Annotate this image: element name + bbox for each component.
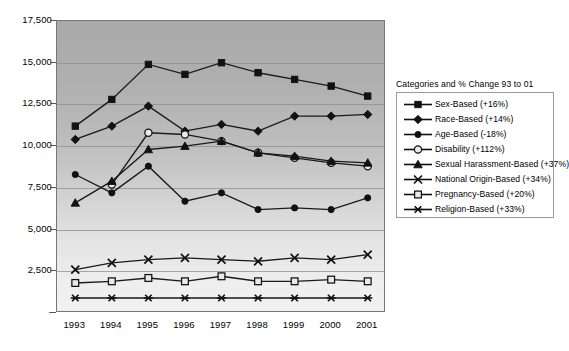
legend-item[interactable]: Sexual Harassment-Based (+37%) <box>401 157 553 172</box>
data-point-asterisk <box>363 295 372 302</box>
legend-marker-open-circle <box>403 142 433 157</box>
data-point-filled-diamond <box>364 110 372 118</box>
data-point-filled-diamond <box>290 112 298 120</box>
data-point-open-square <box>72 280 79 287</box>
data-point-filled-square <box>72 123 78 129</box>
data-point-filled-square <box>365 93 371 99</box>
data-point-asterisk <box>217 295 226 302</box>
y-axis: -2,5005,0007,50010,00012,50015,00017,500 <box>0 0 52 351</box>
y-axis-tick-label: 15,000 <box>0 57 52 67</box>
data-point-filled-circle <box>415 131 421 137</box>
legend-marker-asterisk <box>403 202 433 217</box>
series-line <box>75 166 367 209</box>
y-axis-tick-label: 12,500 <box>0 98 52 108</box>
data-point-filled-circle <box>182 198 188 204</box>
legend-item[interactable]: Sex-Based (+16%) <box>401 97 553 112</box>
y-axis-tick-label: - <box>0 307 52 317</box>
data-point-filled-square <box>109 96 115 102</box>
data-point-asterisk <box>71 295 80 302</box>
legend-marker-cross-x <box>403 172 433 187</box>
legend-item-label: Disability (+112%) <box>435 144 505 155</box>
legend-item[interactable]: Race-Based (+14%) <box>401 112 553 127</box>
data-point-open-square <box>108 278 115 285</box>
series-line <box>75 255 367 270</box>
legend-item-label: Age-Based (-18%) <box>435 129 507 140</box>
data-point-open-square <box>218 273 225 280</box>
legend-item-label: Religion-Based (+33%) <box>435 204 525 215</box>
series-5 <box>71 251 371 274</box>
data-point-open-square <box>291 278 298 285</box>
data-point-filled-circle <box>109 190 115 196</box>
data-point-filled-diamond <box>254 127 262 135</box>
legend-item[interactable]: Disability (+112%) <box>401 142 553 157</box>
data-point-filled-diamond <box>217 120 225 128</box>
data-point-filled-square <box>145 61 151 67</box>
legend-marker-filled-circle <box>403 127 433 142</box>
legend-marker-filled-diamond <box>403 112 433 127</box>
legend: Sex-Based (+16%)Race-Based (+14%)Age-Bas… <box>396 92 554 218</box>
y-axis-tick-label: 7,500 <box>0 182 52 192</box>
legend-item[interactable]: Pregnancy-Based (+20%) <box>401 187 553 202</box>
y-axis-tick-mark <box>50 312 56 313</box>
data-point-open-square <box>364 278 371 285</box>
data-point-asterisk <box>290 295 299 302</box>
data-point-asterisk <box>253 295 262 302</box>
y-axis-tick-label: 10,000 <box>0 140 52 150</box>
legend-marker-filled-triangle <box>403 157 433 172</box>
data-point-filled-circle <box>145 163 151 169</box>
data-point-asterisk <box>413 206 422 213</box>
data-point-open-square <box>145 275 152 282</box>
data-point-filled-circle <box>292 205 298 211</box>
series-6 <box>72 273 371 286</box>
data-point-filled-diamond <box>71 135 79 143</box>
series-layer <box>57 21 385 312</box>
data-point-open-square <box>182 278 189 285</box>
legend-item-label: Sex-Based (+16%) <box>435 99 508 110</box>
legend-marker-filled-square <box>403 97 433 112</box>
data-point-open-circle <box>145 129 152 136</box>
legend-item-label: National Origin-Based (+34%) <box>435 174 551 185</box>
y-axis-tick-label: 17,500 <box>0 15 52 25</box>
series-line <box>112 133 368 185</box>
series-0 <box>72 60 371 130</box>
data-point-open-circle <box>414 146 421 153</box>
data-point-filled-diamond <box>144 102 152 110</box>
data-point-filled-diamond <box>108 122 116 130</box>
legend-item-label: Sexual Harassment-Based (+37%) <box>435 159 569 170</box>
data-point-filled-circle <box>218 190 224 196</box>
data-point-filled-circle <box>328 206 334 212</box>
y-axis-tick-label: 5,000 <box>0 224 52 234</box>
legend-item[interactable]: National Origin-Based (+34%) <box>401 172 553 187</box>
data-point-open-square <box>328 276 335 283</box>
data-point-open-square <box>255 278 262 285</box>
y-axis-tick-label: 2,500 <box>0 265 52 275</box>
data-point-filled-circle <box>72 171 78 177</box>
data-point-filled-square <box>415 101 421 107</box>
legend-item-label: Pregnancy-Based (+20%) <box>435 189 535 200</box>
data-point-filled-diamond <box>414 115 422 123</box>
data-point-filled-circle <box>255 206 261 212</box>
data-point-filled-triangle <box>71 199 79 207</box>
data-point-filled-square <box>255 70 261 76</box>
data-point-asterisk <box>144 295 153 302</box>
data-point-filled-diamond <box>327 112 335 120</box>
legend-marker-open-square <box>403 187 433 202</box>
series-7 <box>71 295 373 302</box>
legend-title: Categories and % Change 93 to 01 <box>396 79 533 89</box>
data-point-filled-square <box>328 83 334 89</box>
data-point-filled-circle <box>365 195 371 201</box>
legend-item[interactable]: Religion-Based (+33%) <box>401 202 553 217</box>
legend-item-label: Race-Based (+14%) <box>435 114 513 125</box>
data-point-filled-square <box>291 76 297 82</box>
data-point-asterisk <box>180 295 189 302</box>
data-point-asterisk <box>327 295 336 302</box>
series-2 <box>72 163 371 213</box>
data-point-filled-square <box>218 60 224 66</box>
data-point-filled-square <box>182 71 188 77</box>
legend-item[interactable]: Age-Based (-18%) <box>401 127 553 142</box>
data-point-open-square <box>415 191 422 198</box>
x-axis-tick-label: 2001 <box>345 319 389 330</box>
data-point-open-circle <box>181 131 188 138</box>
data-point-asterisk <box>107 295 116 302</box>
